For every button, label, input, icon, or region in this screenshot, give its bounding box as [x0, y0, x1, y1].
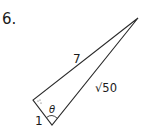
side-label-7: 7 — [73, 52, 81, 66]
right-angle-marker — [37, 99, 41, 103]
triangle-diagram: 7 √50 1 θ — [0, 0, 144, 127]
angle-label-theta: θ — [49, 104, 55, 115]
side-label-sqrt50: √50 — [95, 81, 117, 95]
side-label-1: 1 — [35, 114, 43, 127]
angle-arc — [47, 115, 58, 118]
